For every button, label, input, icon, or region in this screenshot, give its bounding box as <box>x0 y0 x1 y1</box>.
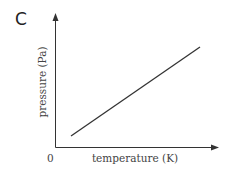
x-axis-label: temperature (K) <box>92 152 178 164</box>
y-axis-arrow-icon <box>53 13 59 21</box>
y-axis-label: pressure (Pa) <box>36 46 48 117</box>
data-line <box>71 47 200 136</box>
chart-plot <box>0 0 231 173</box>
y-axis <box>53 13 59 148</box>
origin-label: 0 <box>47 152 54 164</box>
x-axis-arrow-icon <box>211 145 219 151</box>
x-axis <box>56 145 220 151</box>
